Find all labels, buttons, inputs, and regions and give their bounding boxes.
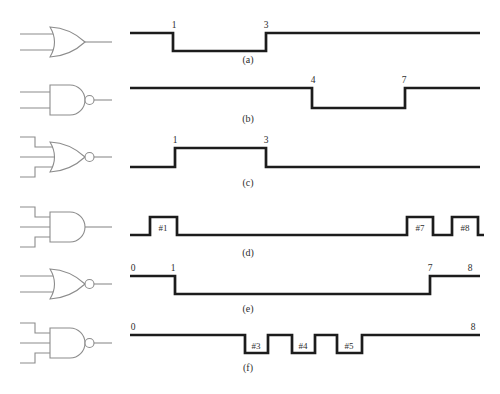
- caption-b: (b): [242, 113, 254, 125]
- time-mark: 3: [264, 20, 269, 30]
- gate-nor-3in: [20, 137, 112, 177]
- figure-canvas: 13(a)47(b)13(c)#1#7#8(d)0178(e)08#3#4#5(…: [0, 0, 500, 394]
- time-mark: 7: [402, 75, 407, 85]
- time-mark: 3: [264, 135, 269, 145]
- signal-trace-c: [130, 148, 480, 167]
- and-gate-body: [50, 212, 85, 242]
- time-mark: 0: [131, 322, 136, 332]
- nand-gate-body: [50, 328, 85, 358]
- time-mark: 4: [311, 75, 316, 85]
- gate-and-3in: [20, 207, 112, 247]
- nor-gate-body: [50, 142, 85, 172]
- caption-d: (d): [242, 247, 254, 259]
- time-mark: 7: [428, 263, 433, 273]
- pulse-label: #7: [416, 223, 426, 233]
- pulse-label: #8: [461, 223, 471, 233]
- caption-a: (a): [242, 54, 253, 66]
- time-mark: 8: [468, 263, 473, 273]
- gate-nor-2in: [20, 269, 112, 299]
- or-gate-body: [50, 27, 85, 57]
- signal-trace-a: [130, 33, 480, 51]
- waveform-row-a: 13(a): [130, 20, 480, 66]
- waveform-row-b: 47(b): [130, 75, 480, 125]
- inversion-bubble: [85, 339, 94, 348]
- nand-gate-body: [50, 85, 85, 115]
- caption-e: (e): [242, 303, 253, 315]
- caption-f: (f): [243, 362, 253, 374]
- caption-c: (c): [242, 177, 253, 189]
- time-mark: 0: [131, 263, 136, 273]
- gate-nand-3in: [20, 323, 112, 363]
- logic-gates-timing-diagram: 13(a)47(b)13(c)#1#7#8(d)0178(e)08#3#4#5(…: [0, 0, 500, 394]
- gate-nand-2in: [20, 85, 112, 115]
- time-mark: 1: [173, 135, 178, 145]
- pulse-label: #1: [159, 223, 168, 233]
- time-mark: 1: [172, 20, 177, 30]
- signal-trace-b: [130, 88, 480, 108]
- pulse-label: #5: [345, 341, 355, 351]
- inversion-bubble: [85, 153, 94, 162]
- inversion-bubble: [85, 96, 94, 105]
- pulse-label: #3: [252, 341, 262, 351]
- waveform-row-e: 0178(e): [130, 263, 480, 315]
- waveform-row-d: #1#7#8(d): [130, 217, 484, 259]
- waveforms-column: 13(a)47(b)13(c)#1#7#8(d)0178(e)08#3#4#5(…: [130, 20, 484, 374]
- waveform-row-c: 13(c): [130, 135, 480, 189]
- inversion-bubble: [85, 280, 94, 289]
- signal-trace-d: [130, 217, 484, 235]
- time-mark: 8: [471, 322, 476, 332]
- time-mark: 1: [171, 263, 176, 273]
- pulse-label: #4: [299, 341, 309, 351]
- signal-trace-e: [130, 276, 480, 294]
- nor-gate-body: [50, 269, 85, 299]
- gates-column: [20, 27, 112, 363]
- waveform-row-f: 08#3#4#5(f): [130, 322, 480, 374]
- gate-or-2in: [20, 27, 112, 57]
